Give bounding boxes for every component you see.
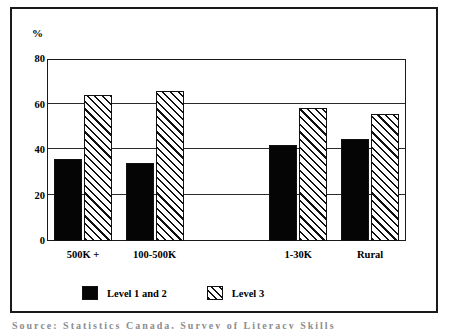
legend-entry-2: Level 3: [207, 286, 264, 300]
y-axis-unit-label: %: [32, 27, 43, 39]
y-tick-label-0: 0: [19, 236, 45, 247]
bar-Rural-level-1-and-2: [341, 139, 369, 241]
y-axis-tick-labels: 020406080: [17, 59, 45, 241]
figure-caption-clipped: Source: Statistics Canada, Survey of Lit…: [12, 320, 432, 329]
chart-legend: Level 1 and 2Level 3: [82, 286, 264, 300]
y-tick-label-40: 40: [19, 145, 45, 156]
legend-entry-1: Level 1 and 2: [82, 286, 167, 300]
y-tick-label-20: 20: [19, 190, 45, 201]
x-axis-category-labels: 500K +100-500K1-30KRural: [47, 249, 406, 267]
x-label-100-500K: 100-500K: [105, 249, 205, 260]
bar-1-30K-level-3: [299, 108, 327, 241]
figure-frame: % 020406080 500K +100-500K1-30KRural Lev…: [10, 7, 438, 313]
legend-label-1: Level 1 and 2: [107, 288, 167, 299]
legend-swatch-solid-black: [82, 286, 98, 300]
bars-layer: [47, 59, 406, 241]
bar-500K +-level-3: [84, 95, 112, 241]
y-tick-label-60: 60: [19, 99, 45, 110]
bar-100-500K-level-3: [156, 91, 184, 241]
bar-100-500K-level-1-and-2: [126, 163, 154, 241]
bar-Rural-level-3: [371, 114, 399, 241]
bar-1-30K-level-1-and-2: [269, 145, 297, 241]
bar-500K +-level-1-and-2: [54, 159, 82, 241]
legend-label-2: Level 3: [232, 288, 264, 299]
legend-swatch-diagonal-hatch: [207, 286, 223, 300]
x-label-Rural: Rural: [320, 249, 420, 260]
y-tick-label-80: 80: [19, 54, 45, 65]
